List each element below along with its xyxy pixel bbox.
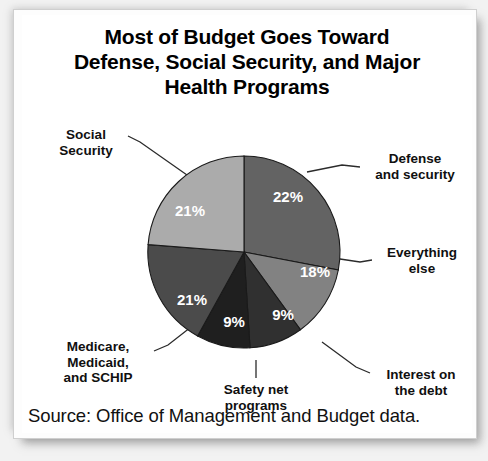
pie-value-defense-and-security: 22% [273,188,303,205]
pie-value-medicare-medicaid-schip: 21% [177,291,207,308]
pie-value-everything-else: 18% [300,263,330,280]
pie-value-interest-on-the-debt: 9% [272,306,294,323]
leader-line-social-security [128,136,187,175]
chart-card: Most of Budget Goes Toward Defense, Soci… [22,15,472,433]
chart-source-note: Source: Office of Management and Budget … [28,405,468,427]
pie-label-defense-and-security: Defense and security [362,151,468,182]
pie-label-interest-on-the-debt: Interest on the debt [372,367,470,398]
leader-line-interest [322,342,370,373]
pie-slice-defense-and-security[interactable] [244,156,340,270]
pie-value-safety-net-programs: 9% [223,313,245,330]
pie-label-everything-else: Everything else [374,245,470,276]
chart-page: Most of Budget Goes Toward Defense, Soci… [0,0,488,461]
pie-label-medicare-medicaid-schip: Medicare, Medicaid, and SCHIP [40,339,156,386]
leader-line-defense [307,165,360,172]
pie-value-social-security: 21% [175,202,205,219]
pie-label-social-security: Social Security [38,127,134,158]
leader-line-everything-else [340,259,372,262]
